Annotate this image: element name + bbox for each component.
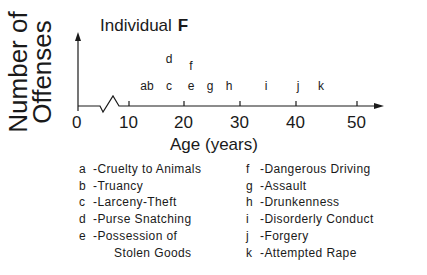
offense-marker-e: e bbox=[188, 79, 195, 93]
x-tick-50: 50 bbox=[347, 113, 366, 133]
legend-item-i: i-Disorderly Conduct bbox=[246, 212, 374, 226]
x-axis-line bbox=[78, 96, 378, 112]
legend-item-d: d-Purse Snatching bbox=[79, 212, 191, 226]
offense-marker-c: c bbox=[166, 79, 172, 93]
legend-item-g: g-Assault bbox=[246, 179, 307, 193]
offense-marker-f: f bbox=[189, 59, 192, 73]
offense-marker-i: i bbox=[265, 79, 268, 93]
offense-marker-j: j bbox=[297, 79, 300, 93]
x-tick-20: 20 bbox=[174, 113, 193, 133]
x-axis-arrow-icon bbox=[374, 103, 384, 109]
legend-item-k: k-Attempted Rape bbox=[246, 246, 357, 260]
x-tick-0: 0 bbox=[72, 113, 81, 133]
legend-item-e-continued: Stolen Goods bbox=[114, 246, 192, 260]
legend-item-c: c-Larceny-Theft bbox=[79, 195, 177, 209]
offense-marker-k: k bbox=[318, 79, 324, 93]
x-tick-30: 30 bbox=[230, 113, 249, 133]
x-tick-40: 40 bbox=[286, 113, 305, 133]
offense-marker-ab: ab bbox=[140, 79, 153, 93]
offense-marker-h: h bbox=[226, 79, 233, 93]
y-axis-arrow-icon bbox=[75, 32, 81, 41]
legend-item-e: e-Possession of bbox=[79, 229, 177, 243]
legend-item-f: f-Dangerous Driving bbox=[246, 162, 371, 176]
x-tick-10: 10 bbox=[119, 113, 138, 133]
offense-marker-g: g bbox=[207, 79, 214, 93]
x-axis-label: Age (years) bbox=[170, 135, 258, 155]
legend-item-b: b-Truancy bbox=[79, 179, 143, 193]
legend-item-h: h-Drunkenness bbox=[246, 195, 340, 209]
offense-marker-d: d bbox=[166, 52, 173, 66]
legend-item-a: a-Cruelty to Animals bbox=[79, 162, 201, 176]
legend-item-j: j-Forgery bbox=[246, 229, 309, 243]
